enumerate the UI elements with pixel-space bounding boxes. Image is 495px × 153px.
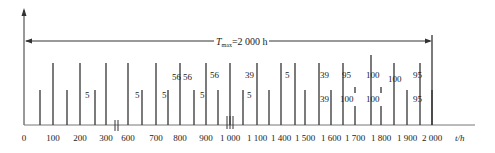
chart-svg: Tmax=2 000 h 555565655639553910095953995…: [0, 0, 495, 153]
chart-container: Tmax=2 000 h 555565655639553910095953995…: [0, 0, 495, 153]
bar-value-label: 39: [320, 94, 330, 104]
bar-value-label: 5: [247, 90, 252, 100]
x-tick-label: 0: [22, 133, 27, 143]
bar-value-label: 39: [245, 70, 255, 80]
x-tick-labels: 01002003006007008009001 0001 1001 4001 5…: [22, 133, 443, 143]
bar-value-label: 56: [210, 70, 220, 80]
bar-value-label: 100: [366, 94, 380, 104]
axis-break-2: [227, 116, 233, 129]
bars-group: [40, 35, 432, 125]
x-tick-label: 1 700: [345, 133, 366, 143]
x-tick-label: 900: [199, 133, 213, 143]
bar-labels-group: 555565655639553910095953995100100100: [85, 70, 423, 104]
x-tick-label: 1 900: [397, 133, 418, 143]
bar-value-label: 39: [320, 70, 330, 80]
bar-value-label: 95: [342, 70, 352, 80]
x-tick-label: 1 100: [247, 133, 268, 143]
bar-value-label: 100: [388, 74, 402, 84]
tmax-arrow-right-icon: [425, 39, 432, 44]
x-axis-label: t/h: [455, 133, 465, 143]
bar-value-label: 56: [172, 72, 182, 82]
bar-value-label: 5: [200, 90, 205, 100]
bar-value-label: 100: [366, 70, 380, 80]
x-tick-label: 300: [99, 133, 113, 143]
tmax-arrow-left-icon: [25, 39, 32, 44]
x-tick-label: 1 400: [271, 133, 292, 143]
x-tick-label: 2 000: [422, 133, 443, 143]
bar-value-label: 5: [285, 70, 290, 80]
x-tick-label: 700: [149, 133, 163, 143]
x-tick-label: 100: [46, 133, 60, 143]
bar-value-label: 100: [340, 94, 354, 104]
x-tick-label: 200: [73, 133, 87, 143]
x-tick-label: 800: [173, 133, 187, 143]
bar-value-label: 95: [413, 94, 423, 104]
x-tick-label: 1 600: [321, 133, 342, 143]
bar-value-label: 5: [162, 90, 167, 100]
bar-value-label: 95: [413, 70, 423, 80]
bar-value-label: 56: [183, 72, 193, 82]
bar-value-label: 5: [85, 90, 90, 100]
x-tick-label: 1 000: [220, 133, 241, 143]
y-axis-arrow-icon: [22, 8, 27, 16]
tmax-annotation: Tmax=2 000 h: [216, 36, 268, 48]
x-tick-label: 1 800: [371, 133, 392, 143]
x-tick-label: 600: [121, 133, 135, 143]
x-tick-label: 1 500: [295, 133, 316, 143]
bar-value-label: 5: [135, 90, 140, 100]
